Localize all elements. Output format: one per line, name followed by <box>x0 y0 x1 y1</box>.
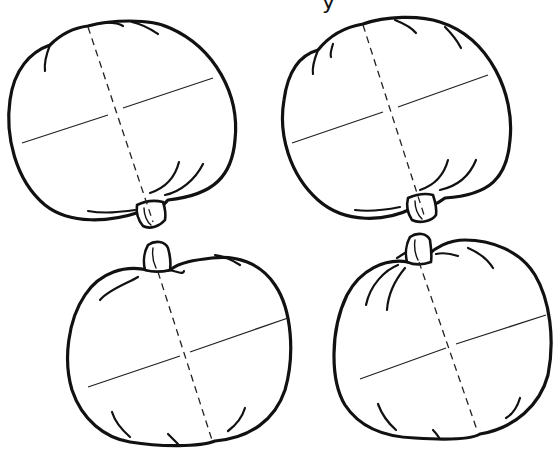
pumpkin-1-top-left <box>9 21 236 228</box>
pumpkin-3-stem <box>144 242 170 272</box>
pumpkin-4-stem <box>406 234 431 264</box>
pumpkin-2-outline <box>282 17 510 218</box>
pumpkin-4-bottom-right <box>334 234 551 439</box>
pumpkin-worksheet <box>0 0 555 453</box>
pumpkin-3-bottom-left <box>68 242 291 446</box>
pumpkin-1-outline <box>9 21 236 220</box>
pumpkin-4-outline <box>334 240 551 439</box>
pumpkin-3-outline <box>68 257 291 445</box>
pumpkin-2-top-right <box>282 17 510 222</box>
